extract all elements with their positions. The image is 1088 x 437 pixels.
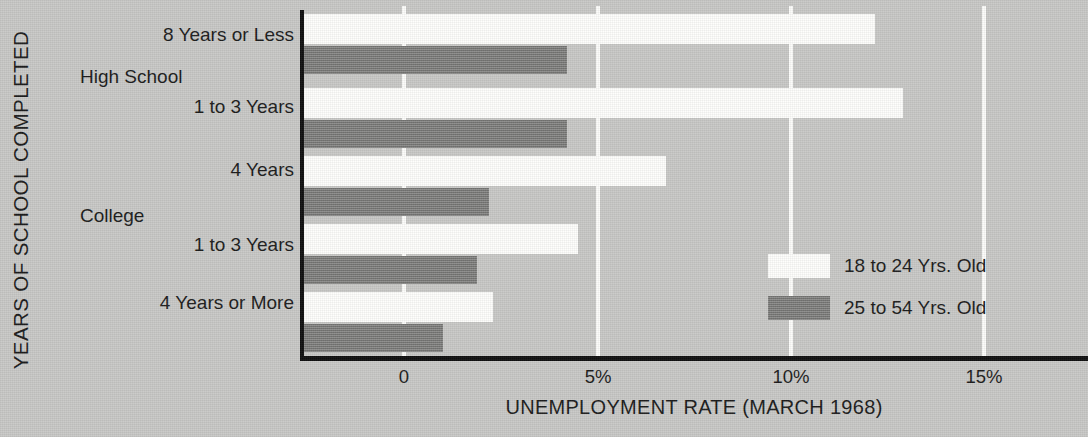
bar-older-high-school-1-to-3-years bbox=[302, 120, 567, 148]
bar-young-8-years-or-less bbox=[302, 14, 875, 44]
x-axis-line bbox=[300, 356, 1088, 361]
x-tick-label-10: 10% bbox=[772, 366, 809, 388]
bar-young-college-4-years-or-more bbox=[302, 292, 493, 322]
category-label-8-years-or-less: 8 Years or Less bbox=[163, 24, 294, 46]
category-label-high-school-1-to-3-years: 1 to 3 Years bbox=[194, 96, 294, 118]
category-label-college-4-years-or-more: 4 Years or More bbox=[160, 292, 294, 314]
bar-older-college-4-years-or-more bbox=[302, 324, 443, 352]
legend-swatch-25-to-54-icon bbox=[768, 296, 830, 320]
bar-older-high-school-4-years bbox=[302, 188, 489, 216]
legend-label-18-to-24: 18 to 24 Yrs. Old bbox=[844, 255, 986, 277]
legend-label-25-to-54: 25 to 54 Yrs. Old bbox=[844, 297, 986, 319]
x-tick-label-15: 15% bbox=[965, 366, 1002, 388]
bar-older-8-years-or-less bbox=[302, 46, 567, 74]
x-axis-tick-labels: 0 5% 10% 15% bbox=[300, 366, 1088, 392]
bar-young-high-school-4-years bbox=[302, 156, 666, 186]
bar-chart: YEARS OF SCHOOL COMPLETED 8 Years or Les… bbox=[0, 0, 1088, 437]
x-tick-label-5: 5% bbox=[585, 366, 612, 388]
category-label-column: 8 Years or Less High School 1 to 3 Years… bbox=[44, 0, 300, 352]
category-group-college: College bbox=[80, 205, 144, 227]
y-axis-title: YEARS OF SCHOOL COMPLETED bbox=[0, 0, 42, 400]
legend-item-18-to-24: 18 to 24 Yrs. Old bbox=[768, 254, 986, 278]
y-axis-line bbox=[300, 10, 304, 360]
y-axis-title-text: YEARS OF SCHOOL COMPLETED bbox=[9, 31, 33, 369]
legend-swatch-18-to-24-icon bbox=[768, 254, 830, 278]
x-axis-title: UNEMPLOYMENT RATE (MARCH 1968) bbox=[300, 396, 1088, 419]
bar-young-college-1-to-3-years bbox=[302, 224, 578, 254]
legend-item-25-to-54: 25 to 54 Yrs. Old bbox=[768, 296, 986, 320]
bar-older-college-1-to-3-years bbox=[302, 256, 477, 284]
bar-young-high-school-1-to-3-years bbox=[302, 88, 903, 118]
category-label-college-1-to-3-years: 1 to 3 Years bbox=[194, 234, 294, 256]
category-label-high-school-4-years: 4 Years bbox=[231, 159, 294, 181]
x-tick-label-0: 0 bbox=[399, 366, 409, 388]
category-group-high-school: High School bbox=[80, 66, 182, 88]
